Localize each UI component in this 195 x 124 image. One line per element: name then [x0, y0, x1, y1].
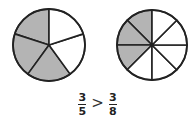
denominator: 8 [109, 106, 117, 117]
greater-than-sign: > [91, 96, 104, 111]
numerator: 3 [109, 92, 117, 103]
fraction-right: 3 8 [109, 92, 117, 117]
numerator: 3 [78, 92, 86, 103]
pie-fifths [13, 9, 85, 81]
denominator: 5 [78, 106, 86, 117]
fraction-left: 3 5 [78, 92, 86, 117]
fraction-comparison: 3 5 > 3 8 [0, 92, 195, 117]
pie-eighths [117, 10, 187, 80]
